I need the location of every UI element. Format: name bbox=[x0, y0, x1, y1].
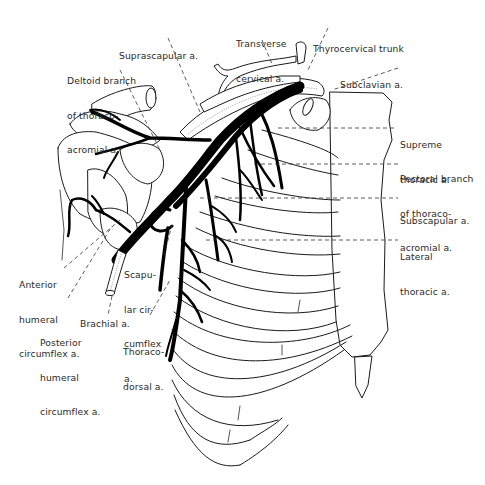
label-line: acromial a. bbox=[67, 144, 136, 156]
label-line: Thoraco- bbox=[123, 346, 164, 358]
anatomical-diagram: Suprascapular a. Transverse cervical a. … bbox=[0, 0, 485, 485]
label-posterior-humeral-circumflex-artery: Posterior humeral circumflex a. bbox=[40, 314, 101, 441]
label-subclavian-artery: Subclavian a. bbox=[340, 56, 403, 114]
label-line: Deltoid branch bbox=[67, 75, 136, 87]
label-line: dorsal a. bbox=[123, 381, 164, 393]
label-lateral-thoracic-artery: Lateral thoracic a. bbox=[400, 228, 450, 320]
label-line: Thyrocervical trunk bbox=[313, 43, 404, 55]
label-line: humeral bbox=[40, 372, 101, 384]
label-line: thoracic a. bbox=[400, 286, 450, 298]
clavicle-end bbox=[290, 97, 330, 130]
label-line: Scapu- bbox=[124, 269, 161, 281]
label-line: circumflex a. bbox=[40, 406, 101, 418]
label-line: Supreme bbox=[400, 139, 450, 151]
sternum bbox=[330, 92, 392, 398]
label-line: Subscapular a. bbox=[400, 215, 469, 227]
label-deltoid-branch: Deltoid branch of thoraco- acromial a. bbox=[67, 52, 136, 179]
label-line: Subclavian a. bbox=[340, 79, 403, 91]
label-transverse-cervical-artery: Transverse cervical a. bbox=[236, 15, 287, 107]
label-line: of thoraco- bbox=[67, 110, 136, 122]
label-line: cervical a. bbox=[236, 73, 287, 85]
label-line: Anterior bbox=[19, 279, 80, 291]
brachial-artery bbox=[106, 250, 127, 296]
label-thoracodorsal-artery: Thoraco- dorsal a. bbox=[123, 323, 164, 415]
label-line: Lateral bbox=[400, 251, 450, 263]
label-line: Posterior bbox=[40, 337, 101, 349]
label-line: Pectoral branch bbox=[400, 173, 473, 185]
label-line: Transverse bbox=[236, 38, 287, 50]
